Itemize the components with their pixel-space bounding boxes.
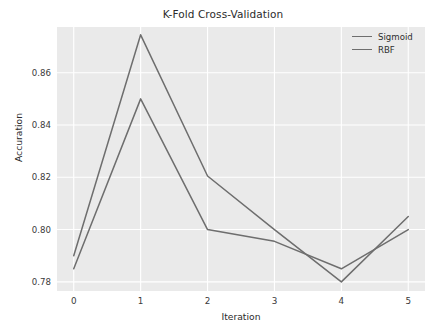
legend-item-rbf[interactable]: RBF bbox=[352, 43, 438, 56]
series-lines bbox=[74, 35, 409, 282]
legend-line-swatch bbox=[352, 36, 372, 37]
chart-figure: K-Fold Cross-Validation 0.780.800.820.84… bbox=[0, 0, 446, 330]
legend-item-sigmoid[interactable]: Sigmoid bbox=[352, 30, 438, 43]
y-tick-label: 0.78 bbox=[5, 277, 51, 287]
legend-line-swatch bbox=[352, 49, 372, 50]
plot-svg bbox=[57, 27, 425, 291]
y-axis-ticks: 0.780.800.820.840.86 bbox=[0, 27, 51, 291]
x-tick-label: 4 bbox=[339, 296, 345, 306]
chart-legend: Sigmoid RBF bbox=[352, 30, 438, 56]
x-tick-label: 2 bbox=[205, 296, 211, 306]
x-axis-label: Iteration bbox=[57, 311, 425, 322]
x-tick-label: 5 bbox=[405, 296, 411, 306]
gridlines-horizontal bbox=[57, 73, 425, 282]
legend-label: RBF bbox=[378, 45, 395, 55]
legend-label: Sigmoid bbox=[378, 32, 413, 42]
y-tick-label: 0.80 bbox=[5, 225, 51, 235]
x-tick-label: 0 bbox=[71, 296, 77, 306]
x-tick-label: 1 bbox=[138, 296, 144, 306]
plot-area bbox=[57, 27, 425, 291]
y-axis-label: Accuration bbox=[13, 93, 24, 183]
series-line-sigmoid bbox=[74, 99, 409, 269]
chart-title: K-Fold Cross-Validation bbox=[0, 8, 446, 20]
gridlines-vertical bbox=[74, 27, 409, 291]
y-tick-label: 0.86 bbox=[5, 68, 51, 78]
x-axis-ticks: 012345 bbox=[57, 296, 425, 310]
x-tick-label: 3 bbox=[272, 296, 278, 306]
series-line-rbf bbox=[74, 35, 409, 282]
